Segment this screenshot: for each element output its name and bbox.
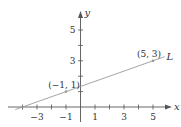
- point-marker: [152, 60, 155, 63]
- line-series: [15, 57, 164, 110]
- x-tick-label: −3: [30, 112, 44, 122]
- y-tick-label: 5: [70, 25, 76, 35]
- x-tick-label: 5: [150, 112, 156, 122]
- line-L: [15, 57, 164, 110]
- x-tick-label: 1: [92, 112, 98, 122]
- point-label: (5, 3): [137, 49, 161, 59]
- x-tick-label: −1: [59, 112, 72, 122]
- x-axis-label: x: [174, 101, 180, 112]
- axes: [8, 11, 172, 122]
- y-axis-label: y: [84, 7, 91, 18]
- line-label: L: [166, 51, 174, 62]
- y-tick-label: 3: [70, 56, 76, 66]
- x-tick-label: 3: [121, 112, 127, 122]
- point-marker: [65, 90, 68, 93]
- y-axis-arrow-icon: [78, 11, 83, 18]
- point-label: (−1, 1): [48, 80, 80, 90]
- labels: xy−3−113535L(−1, 1)(5, 3): [30, 7, 180, 122]
- x-axis-arrow-icon: [165, 105, 172, 110]
- line-chart: xy−3−113535L(−1, 1)(5, 3): [0, 0, 181, 127]
